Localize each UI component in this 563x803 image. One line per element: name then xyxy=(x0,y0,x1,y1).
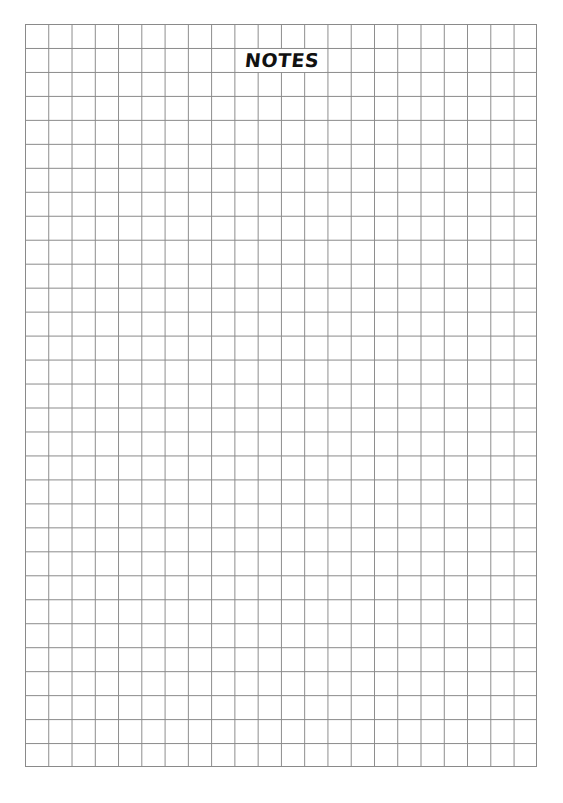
notes-page: NOTES xyxy=(0,0,563,803)
title-block: NOTES xyxy=(239,49,325,72)
page-title: NOTES xyxy=(244,51,320,70)
grid-paper xyxy=(25,24,537,767)
